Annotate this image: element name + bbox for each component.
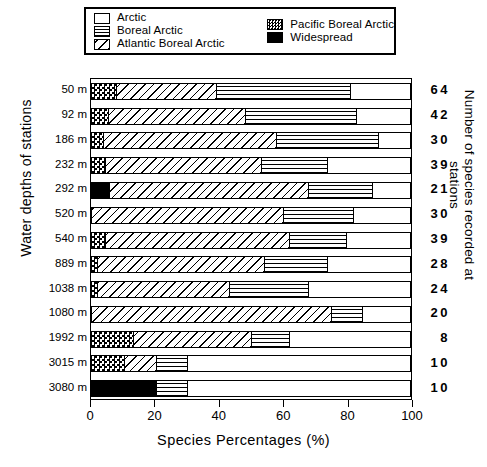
bar-segment-arctic <box>187 381 410 396</box>
y-axis-tick-label: 1038 m <box>49 283 87 295</box>
stacked-bar <box>91 232 411 249</box>
legend-column-right: Pacific Boreal Arctic Widespread <box>259 9 394 53</box>
bar-segment-boreal <box>264 257 328 272</box>
white-square-swatch-icon <box>94 13 110 24</box>
bar-segment-atlantic <box>92 307 331 322</box>
bar-segment-boreal <box>308 183 372 198</box>
bar-segment-atlantic <box>108 109 245 124</box>
species-count-label: 30 <box>416 207 450 220</box>
x-axis-tick-labels: 020406080100 <box>30 409 470 427</box>
species-count-label: 39 <box>416 232 450 245</box>
legend-item-arctic: Arctic <box>94 12 259 25</box>
y-axis-tick-label: 889 m <box>55 258 87 270</box>
diagonal-lines-swatch-icon <box>94 39 110 50</box>
bar-segment-boreal <box>229 282 309 297</box>
x-axis-tick-label: 20 <box>134 409 174 422</box>
bar-segment-pacific <box>92 84 116 99</box>
y-axis-tick-label: 232 m <box>55 159 87 171</box>
bar-segment-arctic <box>346 233 410 248</box>
bar-segment-atlantic <box>105 158 261 173</box>
y-axis-right-title: Number of species recorded at stations <box>447 85 477 285</box>
stacked-bar <box>91 207 411 224</box>
stacked-bar <box>91 182 411 199</box>
black-square-swatch-icon <box>267 32 283 43</box>
y-axis-tick-label: 3080 m <box>49 382 87 394</box>
bar-segment-arctic <box>378 133 410 148</box>
bar-segment-boreal <box>251 332 289 347</box>
horizontal-lines-swatch-icon <box>94 26 110 37</box>
bar-segment-atlantic <box>97 282 229 297</box>
stacked-bar <box>91 83 411 100</box>
stacked-bar <box>91 355 411 372</box>
bar-segment-arctic <box>308 282 410 297</box>
x-axis-title: Species Percentages (%) <box>0 432 487 448</box>
bar-segment-arctic <box>289 332 410 347</box>
species-count-label: 10 <box>416 356 450 369</box>
legend-item-atlantic-boreal-arctic: Atlantic Boreal Arctic <box>94 38 259 51</box>
stacked-bar <box>91 256 411 273</box>
plot-area <box>90 78 412 400</box>
legend-item-widespread: Widespread <box>267 31 394 44</box>
bar-segment-arctic <box>362 307 410 322</box>
bar-segment-arctic <box>372 183 410 198</box>
bar-segment-arctic <box>350 84 410 99</box>
bar-segment-pacific <box>92 133 103 148</box>
x-axis-tick <box>154 400 155 407</box>
y-axis-depth-labels: 50 m92 m186 m232 m292 m520 m540 m889 m10… <box>34 78 87 400</box>
x-axis-tick-label: 40 <box>199 409 239 422</box>
stacked-bar <box>91 331 411 348</box>
bar-segment-atlantic <box>92 208 283 223</box>
bar-segment-atlantic <box>133 332 251 347</box>
y-axis-tick-label: 520 m <box>55 208 87 220</box>
y-axis-left-title: Water depths of stations <box>18 78 34 278</box>
bar-segment-arctic <box>353 208 410 223</box>
bar-segment-boreal <box>331 307 363 322</box>
chart-legend: Arctic Boreal Arctic Atlantic Boreal Arc… <box>84 7 396 55</box>
x-axis-tick-label: 0 <box>70 409 110 422</box>
x-axis-ticks <box>90 400 412 408</box>
x-axis-tick-label: 60 <box>263 409 303 422</box>
bar-segment-arctic <box>356 109 410 124</box>
bar-segment-boreal <box>216 84 350 99</box>
y-axis-tick-label: 540 m <box>55 233 87 245</box>
x-axis-tick <box>219 400 220 407</box>
bar-segment-pacific <box>92 109 108 124</box>
species-count-label: 39 <box>416 158 450 171</box>
bar-segment-atlantic <box>116 84 216 99</box>
legend-item-pacific-boreal-arctic: Pacific Boreal Arctic <box>267 18 394 31</box>
legend-label: Widespread <box>290 32 352 44</box>
y-axis-tick-label: 186 m <box>55 134 87 146</box>
bar-segment-boreal <box>156 381 188 396</box>
bar-segment-boreal <box>261 158 328 173</box>
stacked-bar <box>91 281 411 298</box>
bar-segment-pacific <box>92 356 124 371</box>
x-axis-tick <box>348 400 349 407</box>
checkered-swatch-icon <box>267 19 283 30</box>
species-count-label: 8 <box>416 331 450 344</box>
bar-segment-atlantic <box>103 133 276 148</box>
species-count-label: 42 <box>416 108 450 121</box>
bar-segment-arctic <box>327 257 410 272</box>
x-axis-tick <box>90 400 91 407</box>
bar-segment-pacific <box>92 233 105 248</box>
bar-segment-boreal <box>283 208 353 223</box>
bar-segment-atlantic <box>124 356 156 371</box>
y-axis-tick-label: 1080 m <box>49 307 87 319</box>
bar-segment-atlantic <box>97 257 264 272</box>
y-axis-tick-label: 92 m <box>61 109 87 121</box>
y-axis-tick-label: 3015 m <box>49 357 87 369</box>
bar-segment-boreal <box>156 356 188 371</box>
legend-item-boreal-arctic: Boreal Arctic <box>94 25 259 38</box>
bar-segment-atlantic <box>109 183 308 198</box>
species-count-label: 64 <box>416 83 450 96</box>
legend-label: Pacific Boreal Arctic <box>290 19 394 31</box>
chart-root: Arctic Boreal Arctic Atlantic Boreal Arc… <box>0 0 487 467</box>
x-axis-tick-label: 100 <box>392 409 432 422</box>
legend-label: Atlantic Boreal Arctic <box>117 38 225 50</box>
legend-label: Boreal Arctic <box>117 25 183 37</box>
legend-column-left: Arctic Boreal Arctic Atlantic Boreal Arc… <box>86 9 259 53</box>
bar-segment-widespread <box>92 183 109 198</box>
bar-segment-arctic <box>187 356 410 371</box>
bar-segment-boreal <box>276 133 378 148</box>
stacked-bar <box>91 306 411 323</box>
